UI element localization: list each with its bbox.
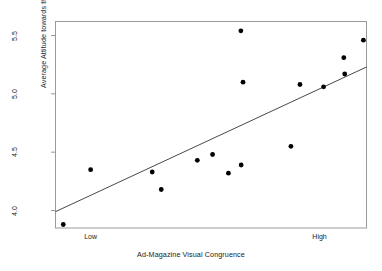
data-point [195, 158, 200, 163]
y-tick-label-5-0: 5.0 [10, 79, 20, 109]
x-axis-title: Ad-Magazine Visual Congruence [0, 250, 382, 259]
data-point [159, 187, 164, 192]
scatter-plot-figure: 5.5 5.0 4.5 4.0 Low High Ad-Magazine Vis… [0, 0, 382, 271]
data-point [298, 82, 303, 87]
data-point [289, 144, 294, 149]
data-point [210, 152, 215, 157]
x-tick-label-low: Low [61, 231, 121, 242]
data-point [226, 171, 231, 176]
y-axis-ticks [51, 36, 56, 211]
data-point [150, 170, 155, 175]
trendline [56, 67, 367, 212]
y-axis-title: Average Attitude towards the Product [38, 0, 50, 131]
data-point [321, 84, 326, 89]
data-point [238, 28, 243, 33]
y-tick-label-4-5: 4.5 [10, 137, 20, 167]
data-point-group [61, 28, 366, 226]
data-point [61, 222, 66, 227]
x-tick-label-high: High [290, 231, 350, 242]
data-point [88, 167, 93, 172]
data-point [241, 80, 246, 85]
data-point [239, 163, 244, 168]
data-point [342, 72, 347, 77]
data-point [341, 55, 346, 60]
y-tick-label-4-0: 4.0 [10, 196, 20, 226]
data-point [361, 38, 366, 43]
y-tick-label-5-5: 5.5 [10, 21, 20, 51]
plot-frame [56, 22, 367, 229]
